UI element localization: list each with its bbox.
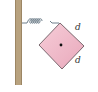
wall <box>15 0 22 85</box>
label-d-lower: d <box>75 55 81 65</box>
label-d-upper: d <box>75 22 81 32</box>
center-dot <box>60 44 63 47</box>
spring-block-diagram: d d <box>0 0 98 92</box>
spring <box>22 19 59 24</box>
